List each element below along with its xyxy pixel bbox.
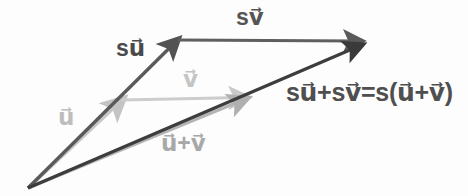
dark-vector-group: [28, 40, 358, 188]
label-v: v⃗: [183, 68, 198, 91]
vector-v-line: [122, 98, 243, 101]
vector-su-line: [28, 43, 175, 189]
vector-diagram-figure: su⃗ sv⃗ u⃗ v⃗ u⃗+v⃗ su⃗+sv⃗=s(u⃗+v⃗): [0, 0, 468, 196]
vector-sv-line: [178, 40, 357, 41]
label-u-plus-v: u⃗+v⃗: [161, 132, 206, 155]
label-distributive-equation: su⃗+sv⃗=s(u⃗+v⃗): [286, 80, 453, 105]
label-u: u⃗: [58, 106, 74, 129]
label-su: su⃗: [116, 37, 145, 60]
label-sv: sv⃗: [236, 6, 264, 29]
